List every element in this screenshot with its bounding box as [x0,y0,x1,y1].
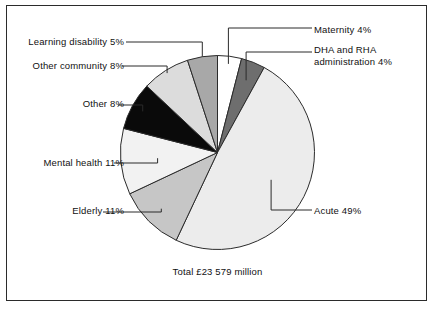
label-elderly-text: Elderly 11% [72,205,124,216]
label-acute-text: Acute 49% [314,205,361,216]
label-dha-rha-line2: administration 4% [314,56,392,68]
label-maternity-text: Maternity 4% [314,24,371,35]
label-other-community: Other community 8% [33,60,124,72]
label-mental-health: Mental health 11% [43,157,124,169]
leader-line-learning-disability [126,42,202,57]
leader-line-other-community [122,66,167,73]
label-learning-disability: Learning disability 5% [28,36,124,48]
label-dha-rha-line1: DHA and RHA [314,44,392,56]
total-caption: Total £23 579 million [0,266,435,277]
label-acute: Acute 49% [314,205,361,217]
label-other-community-text: Other community 8% [33,60,124,71]
label-maternity: Maternity 4% [314,24,371,36]
label-dha-rha-administration: DHA and RHA administration 4% [314,44,392,68]
label-other-text: Other 8% [83,98,124,109]
pie-slices-group [121,56,315,250]
pie-chart-figure: Maternity 4% DHA and RHA administration … [0,0,435,310]
label-learning-disability-text: Learning disability 5% [28,36,124,47]
label-other: Other 8% [83,98,124,110]
label-mental-health-text: Mental health 11% [43,157,124,168]
label-elderly: Elderly 11% [72,205,124,217]
